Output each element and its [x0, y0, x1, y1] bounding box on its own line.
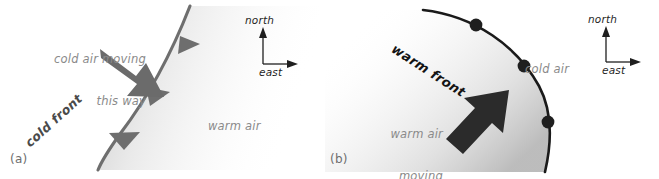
panel-warm-front: warm front warm air moving that way cold…: [325, 0, 659, 179]
cold-air-motion-line: cold air moving: [18, 52, 146, 66]
panel-cold-front: cold air moving this way cold front warm…: [0, 0, 320, 179]
weather-fronts-figure: cold air moving this way cold front warm…: [0, 0, 659, 179]
compass-rose: [606, 33, 634, 62]
panel-tag-a: (a): [10, 152, 27, 166]
warm-air-motion-label: warm air moving that way: [343, 99, 443, 179]
compass-north-label: north: [245, 14, 274, 26]
compass-north-arrowhead: [602, 26, 610, 37]
warm-air-motion-line: moving: [343, 169, 443, 179]
warm-air-label: warm air: [208, 119, 261, 133]
cold-air-label: cold air: [525, 62, 569, 76]
panel-tag-b: (b): [330, 152, 348, 166]
compass-north-label: north: [588, 13, 617, 25]
compass-east-arrowhead: [630, 58, 641, 66]
compass-arrowheads: [602, 26, 641, 66]
warm-air-motion-line: warm air: [343, 127, 443, 141]
warm-front-bump: [542, 116, 555, 129]
cold-air-motion-label: cold air moving this way: [18, 24, 146, 136]
warm-front-bump: [470, 19, 483, 32]
compass-east-label: east: [259, 66, 282, 78]
compass-east-label: east: [602, 64, 625, 76]
